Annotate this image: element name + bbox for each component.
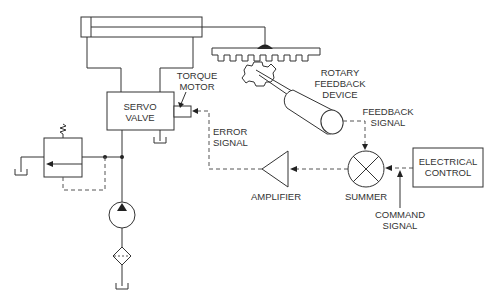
- pump: [109, 202, 135, 247]
- supply-line: [82, 130, 124, 202]
- rotary-feedback-device-label-1: ROTARY: [321, 67, 360, 78]
- electrical-control-label-1: ELECTRICAL: [419, 156, 478, 167]
- servo-valve-label-1: SERVO: [123, 101, 156, 112]
- rotary-feedback-device-label-2: FEEDBACK: [314, 78, 366, 89]
- control-to-summer-line: [385, 165, 413, 171]
- amplifier: [262, 151, 288, 187]
- servo-valve-drain-tank: [154, 130, 166, 143]
- feedback-signal-label-2: SIGNAL: [371, 117, 406, 128]
- error-signal-label-1: ERROR: [213, 126, 247, 137]
- feedback-signal-line: [343, 121, 368, 150]
- servo-valve-label-2: VALVE: [125, 112, 154, 123]
- filter: [113, 247, 131, 286]
- electrical-control-label-2: CONTROL: [425, 167, 471, 178]
- summer-label: SUMMER: [345, 191, 387, 202]
- torque-motor-label-1: TORQUE: [177, 70, 217, 81]
- feedback-signal-label-1: FEEDBACK: [362, 106, 414, 117]
- hydraulic-cylinder: [81, 17, 265, 45]
- amplifier-label: AMPLIFIER: [251, 191, 301, 202]
- command-signal-label-1: COMMAND: [375, 209, 425, 220]
- hydraulic-lines-cylinder: [87, 37, 193, 92]
- summer: [348, 151, 384, 187]
- summer-to-amplifier-line: [290, 166, 348, 172]
- torque-motor-label-2: MOTOR: [179, 81, 214, 92]
- command-signal-arrow: [397, 170, 403, 208]
- pinion-gear: [242, 62, 276, 86]
- rotary-feedback-device-label-3: DEVICE: [322, 89, 357, 100]
- servo-system-diagram: ROTARY FEEDBACK DEVICE FEEDBACK SIGNAL S…: [0, 0, 500, 302]
- error-signal-label-2: SIGNAL: [213, 137, 248, 148]
- command-signal-label-2: SIGNAL: [383, 220, 418, 231]
- torque-motor: [174, 92, 191, 117]
- rack: [212, 45, 320, 62]
